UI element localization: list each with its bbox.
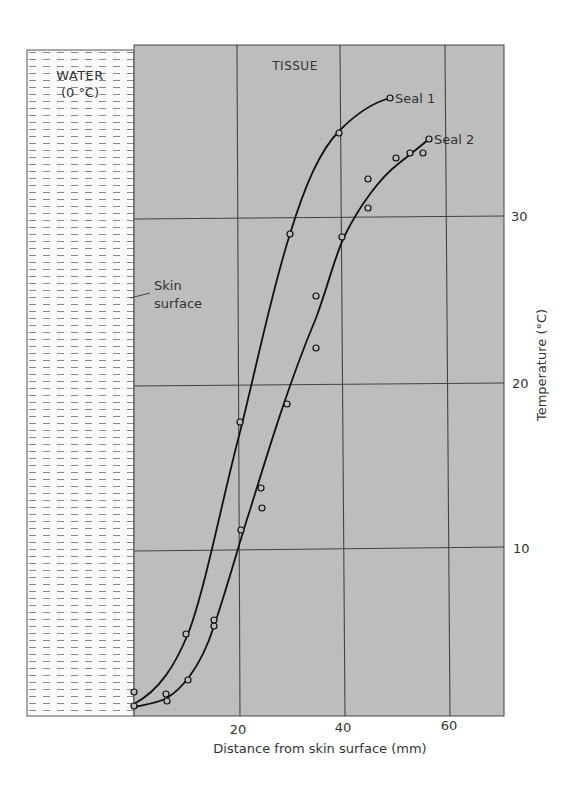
skin-surface-label-1: Skin <box>154 278 182 293</box>
water-temp-label: (0 °C) <box>61 85 99 100</box>
tissue-label: TISSUE <box>271 59 317 73</box>
y-tick-20: 20 <box>512 376 529 391</box>
water-region <box>27 50 134 716</box>
x-axis-label: Distance from skin surface (mm) <box>213 741 426 756</box>
chart: WATER (0 °C) TISSUE Skin surface Seal 1 … <box>0 0 582 797</box>
y-axis-label: Temperature (°C) <box>534 309 549 422</box>
x-tick-60: 60 <box>441 718 458 733</box>
water-label: WATER <box>56 68 104 83</box>
x-tick-40: 40 <box>335 720 352 735</box>
x-tick-20: 20 <box>230 722 247 737</box>
y-tick-10: 10 <box>513 541 530 556</box>
y-tick-30: 30 <box>511 209 528 224</box>
seal1-label: Seal 1 <box>395 91 435 106</box>
seal2-label: Seal 2 <box>434 132 474 147</box>
skin-surface-label-2: surface <box>154 296 202 311</box>
